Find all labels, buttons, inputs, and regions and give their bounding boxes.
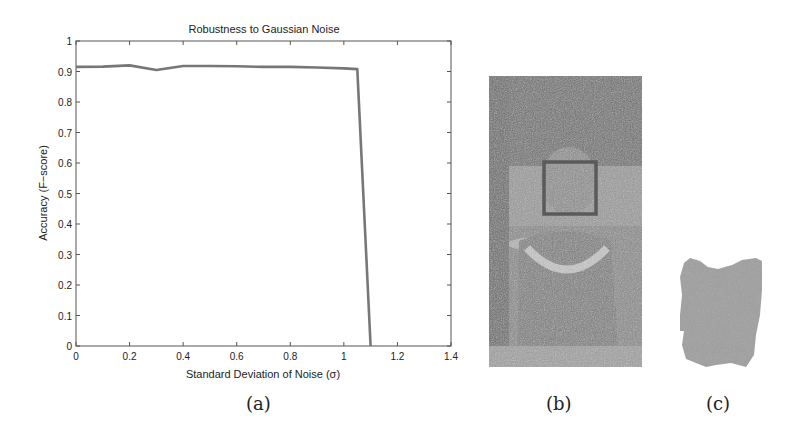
y-tick-label: 0.5 (58, 189, 72, 200)
noisy-photo-with-face-box (489, 76, 642, 367)
x-axis-ticks: 00.20.40.60.811.21.4 (73, 41, 458, 362)
y-tick-label: 1 (66, 36, 72, 47)
x-tick-label: 0.8 (283, 351, 297, 362)
y-tick-label: 0.8 (58, 97, 72, 108)
x-axis-label: Standard Deviation of Noise (σ) (186, 368, 340, 380)
x-tick-label: 1.2 (390, 351, 404, 362)
y-tick-label: 0.6 (58, 158, 72, 169)
y-tick-label: 0.4 (58, 219, 72, 230)
y-tick-label: 0.1 (58, 311, 72, 322)
caption-c: (c) (706, 393, 730, 414)
y-tick-label: 0.2 (58, 280, 72, 291)
accuracy-line-chart: Robustness to Gaussian Noise 00.10.20.30… (0, 0, 470, 390)
plot-area (76, 41, 451, 346)
caption-b: (b) (546, 393, 572, 414)
x-tick-label: 0.6 (230, 351, 244, 362)
y-tick-label: 0.3 (58, 250, 72, 261)
y-tick-label: 0 (66, 341, 72, 352)
photo-illustration (489, 76, 642, 367)
y-tick-label: 0.7 (58, 128, 72, 139)
x-tick-label: 0.4 (176, 351, 190, 362)
y-tick-label: 0.9 (58, 67, 72, 78)
figure: Robustness to Gaussian Noise 00.10.20.30… (0, 0, 804, 444)
chart-title: Robustness to Gaussian Noise (188, 23, 339, 35)
x-tick-label: 1 (341, 351, 347, 362)
caption-a: (a) (246, 393, 271, 414)
skin-segmentation-mask (676, 255, 766, 370)
x-tick-label: 1.4 (444, 351, 458, 362)
x-tick-label: 0 (73, 351, 79, 362)
y-axis-ticks: 00.10.20.30.40.50.60.70.80.91 (58, 36, 451, 352)
f-score-line (76, 65, 371, 346)
y-axis-label: Accuracy (F−score) (37, 145, 49, 241)
x-tick-label: 0.2 (123, 351, 137, 362)
